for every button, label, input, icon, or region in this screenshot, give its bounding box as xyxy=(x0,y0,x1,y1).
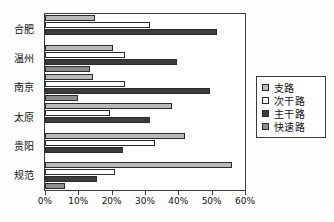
chart-legend: 支路 次干路 主干路 快速路 xyxy=(256,76,326,138)
x-tick-mark xyxy=(112,191,113,195)
category-label: 贵阳 xyxy=(8,138,40,153)
x-axis: 0%10%20%30%40%50%60% xyxy=(44,191,246,217)
bar-chart: 合肥温州南京太原贵阳规范 0%10%20%30%40%50%60% 支路 次干路… xyxy=(0,0,334,222)
legend-swatch-icon xyxy=(262,97,269,104)
x-tick-mark xyxy=(245,191,246,195)
x-tick-mark xyxy=(145,191,146,195)
category-label: 合肥 xyxy=(8,21,40,36)
x-tick-label: 30% xyxy=(135,196,155,206)
x-tick-label: 50% xyxy=(202,196,222,206)
category-label: 规范 xyxy=(8,167,40,182)
category-label: 温州 xyxy=(8,50,40,65)
x-tick-mark xyxy=(212,191,213,195)
legend-item-label: 快速路 xyxy=(274,119,305,134)
legend-swatch-icon xyxy=(262,123,269,130)
x-tick-label: 40% xyxy=(168,196,188,206)
x-tick-label: 60% xyxy=(235,196,255,206)
category-label: 南京 xyxy=(8,79,40,94)
category-label: 太原 xyxy=(8,109,40,124)
legend-swatch-icon xyxy=(262,110,269,117)
x-tick-label: 10% xyxy=(68,196,88,206)
legend-item-kuaisu: 快速路 xyxy=(262,120,322,133)
x-tick-mark xyxy=(45,191,46,195)
x-tick-label: 20% xyxy=(102,196,122,206)
x-tick-mark xyxy=(178,191,179,195)
x-tick-mark xyxy=(78,191,79,195)
legend-swatch-icon xyxy=(262,84,269,91)
x-tick-label: 0% xyxy=(38,196,52,206)
